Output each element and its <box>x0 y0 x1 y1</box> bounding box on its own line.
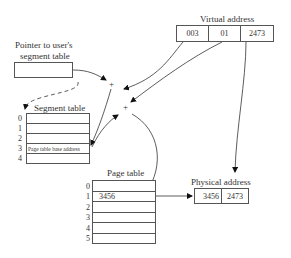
physical-address-box: 3456 2473 <box>194 188 249 204</box>
page-index-0: 0 <box>86 182 90 192</box>
page-table: 3456 <box>92 180 156 244</box>
arrow-pointer-to-adder1 <box>73 70 106 80</box>
pointer-label-line2: segment table <box>20 51 70 61</box>
page-entry-4 <box>93 223 155 234</box>
segment-index-4: 4 <box>18 154 22 164</box>
segment-table-pointer-box <box>14 62 73 78</box>
page-number-field: 01 <box>209 26 241 41</box>
pointer-label-line1: Pointer to user's <box>15 40 73 50</box>
page-index-2: 2 <box>86 203 90 213</box>
segment-table: Page table base address <box>26 113 90 164</box>
segment-entry-4 <box>27 154 89 163</box>
frame-number-field: 3456 <box>195 189 222 203</box>
page-index-3: 3 <box>86 213 90 223</box>
physical-address-label: Physical address <box>191 177 251 187</box>
physical-offset-field: 2473 <box>222 189 248 203</box>
page-entry-2 <box>93 202 155 213</box>
adder-1: + <box>109 79 114 89</box>
segment-entry-0 <box>27 114 89 124</box>
arrow-adder1-to-segment-entry <box>91 89 111 145</box>
arrow-page-field-to-adder2 <box>131 42 222 102</box>
arrow-offset-to-physical <box>235 42 246 172</box>
page-index-1: 1 <box>86 192 90 202</box>
segment-entry-2 <box>27 134 89 144</box>
page-table-label: Page table <box>107 168 144 178</box>
segment-number-field: 003 <box>177 26 209 41</box>
segment-index-1: 1 <box>18 124 22 134</box>
page-entry-5 <box>93 234 155 243</box>
segment-table-label: Segment table <box>34 103 85 113</box>
segment-index-2: 2 <box>18 134 22 144</box>
page-entry-0 <box>93 181 155 192</box>
virtual-address-label: Virtual address <box>200 14 254 24</box>
segment-entry-1 <box>27 124 89 134</box>
arrow-segment-field-to-adder1 <box>124 42 183 89</box>
virtual-address-box: 003 01 2473 <box>176 25 274 42</box>
segment-entry-3: Page table base address <box>27 144 89 154</box>
adder-2: + <box>123 102 128 112</box>
page-index-5: 5 <box>86 234 90 244</box>
arrow-segment-entry-to-adder2 <box>92 115 118 147</box>
page-entry-1: 3456 <box>93 192 155 202</box>
segment-index-0: 0 <box>18 114 22 124</box>
page-entry-3 <box>93 213 155 223</box>
segment-index-3: 3 <box>18 144 22 154</box>
offset-field: 2473 <box>241 26 273 41</box>
page-index-4: 4 <box>86 224 90 234</box>
